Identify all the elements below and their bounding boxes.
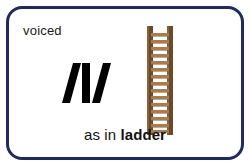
- example-caption: as in ladder: [9, 126, 241, 143]
- phonics-flashcard: voiced: [6, 6, 244, 160]
- phoneme-symbol: [59, 59, 111, 107]
- caption-word: ladder: [120, 126, 166, 143]
- voicing-label: voiced: [23, 23, 62, 38]
- caption-lead: as in: [84, 126, 116, 143]
- ladder-illustration: [145, 26, 175, 135]
